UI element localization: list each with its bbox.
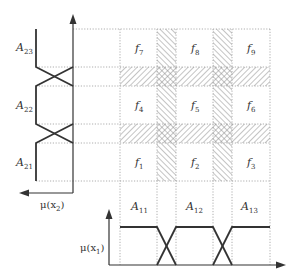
x1-set-labels: A11 A12 A13 (130, 200, 258, 215)
rule-label: f2 (190, 156, 200, 171)
fuzzy-grid-diagram: f7 f8 f9 f4 f5 f6 f1 f2 f3 A23 A22 A21 A… (0, 0, 297, 278)
set-label-a12: A12 (185, 200, 203, 215)
axis-label-mu-x2: μ(x2) (40, 199, 65, 213)
axis-label-mu-x1: μ(x1) (80, 242, 105, 256)
grid-lines (36, 29, 270, 265)
x1-axis (106, 209, 287, 269)
rule-label: f8 (190, 42, 200, 57)
set-label-a11: A11 (130, 200, 148, 215)
set-label-a21: A21 (15, 156, 33, 171)
x2-set-labels: A23 A22 A21 (15, 41, 33, 171)
arrow-right-icon (276, 262, 286, 269)
x1-membership-functions (120, 227, 270, 265)
arrow-left-icon (19, 190, 29, 197)
rule-label: f6 (246, 99, 256, 114)
x2-membership-functions (36, 29, 73, 181)
rule-label: f4 (134, 99, 144, 114)
rule-label: f3 (246, 156, 256, 171)
rule-label: f9 (246, 42, 256, 57)
arrow-up-icon (70, 14, 77, 24)
set-label-a22: A22 (15, 99, 33, 114)
rule-label: f7 (134, 42, 144, 57)
rule-label: f1 (134, 156, 144, 171)
rule-label: f5 (190, 99, 200, 114)
rule-labels: f7 f8 f9 f4 f5 f6 f1 f2 f3 (134, 42, 256, 171)
set-label-a13: A13 (240, 200, 258, 215)
set-label-a23: A23 (15, 41, 33, 56)
arrow-up-icon (106, 209, 113, 219)
